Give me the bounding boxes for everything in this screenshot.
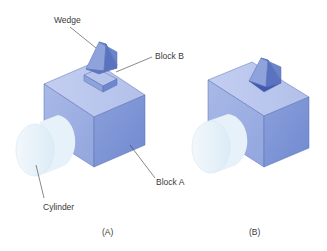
- cylinder-label: Cylinder: [43, 202, 74, 212]
- cylinder-shape: [16, 115, 75, 176]
- wedge-label: Wedge: [54, 15, 81, 25]
- block-b-leader-line: [116, 57, 152, 72]
- block-a-label: Block A: [156, 177, 185, 187]
- panel-b: (B): [192, 58, 309, 237]
- wedge-leader-line: [70, 27, 96, 48]
- block-a-leader-line: [130, 145, 155, 178]
- panel-a-caption: (A): [102, 227, 114, 237]
- block-b-label: Block B: [155, 51, 184, 61]
- panel-a: Wedge Block B Block A Cylinder (A): [16, 15, 185, 237]
- assembled-cylinder-shape: [192, 114, 247, 173]
- panel-b-caption: (B): [249, 227, 261, 237]
- wedge-shape: [86, 42, 117, 74]
- assembly-diagram: Wedge Block B Block A Cylinder (A) (B): [0, 0, 327, 251]
